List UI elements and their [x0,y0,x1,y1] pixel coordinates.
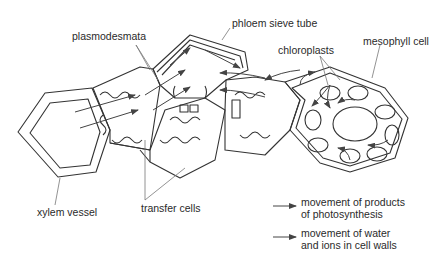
diagram-canvas: plasmodesmata phloem sieve tube chloropl… [0,0,445,261]
legend-line: of photosynthesis [301,208,405,220]
label-chloroplasts: chloroplasts [278,44,334,56]
label-plasmodesmata: plasmodesmata [72,30,146,42]
legend-item-water-ions: movement of water and ions in cell walls [301,227,397,251]
legend-line: movement of water [301,227,397,239]
label-transfer-cells: transfer cells [141,202,201,214]
legend-line: and ions in cell walls [301,239,397,251]
legend-item-photosynthesis: movement of products of photosynthesis [301,196,405,220]
label-xylem-vessel: xylem vessel [37,206,97,218]
transfer-cell-right [225,77,300,155]
transfer-cell-bottom [110,98,225,178]
label-phloem-sieve-tube: phloem sieve tube [232,17,317,29]
label-mesophyll-cell: mesophyll cell [363,35,429,47]
legend-line: movement of products [301,196,405,208]
legend-arrows [273,206,296,237]
xylem-vessel [18,88,110,177]
mesophyll-cell [285,67,408,172]
transfer-cell-left [93,67,160,150]
